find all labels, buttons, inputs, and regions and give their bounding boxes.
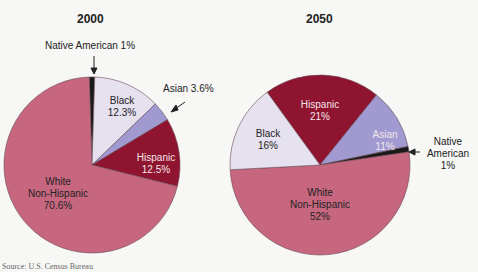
label-white-2000: WhiteNon-Hispanic70.6%	[22, 176, 94, 212]
label-black-2050: Black16%	[248, 128, 288, 152]
label-hispanic-2000: Hispanic12.5%	[128, 152, 184, 176]
label-asian-2000: Asian 3.6%	[163, 83, 214, 95]
label-asian-2050: Asian11%	[365, 129, 405, 153]
source-note: Source: U.S. Census Bureau	[2, 262, 93, 271]
chart-title-2000: 2000	[77, 12, 104, 26]
label-native-american-2050: NativeAmerican1%	[420, 136, 476, 172]
label-white-2050: WhiteNon-Hispanic52%	[280, 187, 360, 223]
label-hispanic-2050: Hispanic21%	[290, 99, 350, 123]
chart-title-2050: 2050	[306, 12, 333, 26]
label-black-2000: Black12.3%	[104, 95, 140, 119]
label-native-american-2000: Native American 1%	[45, 40, 135, 52]
